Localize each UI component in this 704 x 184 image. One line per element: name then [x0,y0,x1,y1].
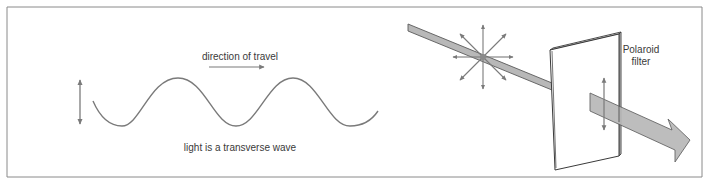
polaroid-panel: Polaroid filter [408,24,690,170]
transverse-wave [93,78,378,126]
direction-of-travel-label: direction of travel [202,51,278,62]
polaroid-filter-label-line2: filter [632,56,652,67]
unpolarized-vibration-icon [453,25,513,89]
polaroid-filter-label: Polaroid [623,44,660,55]
transverse-wave-caption: light is a transverse wave [184,142,297,153]
wave-panel: direction of travel light is a transvers… [80,51,378,153]
polarization-diagram: direction of travel light is a transvers… [0,0,704,184]
